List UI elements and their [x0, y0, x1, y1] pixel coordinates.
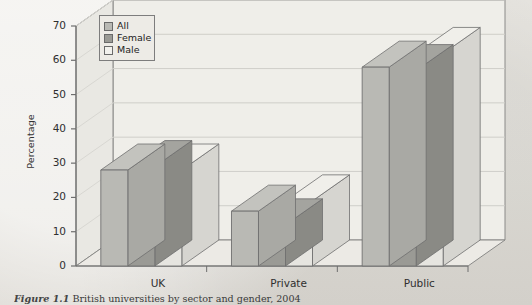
x-tick-label-private: Private	[244, 277, 334, 289]
bar-private-all-front	[231, 211, 258, 266]
figure-caption: Figure 1.1 British universities by secto…	[14, 293, 524, 305]
chart-plot-area	[0, 0, 532, 305]
legend-swatch-male	[104, 46, 113, 55]
y-tick-label-20: 20	[40, 190, 66, 202]
legend-label-female: Female	[117, 32, 151, 44]
bar-public-all-front	[362, 67, 389, 266]
legend-item-all: All	[104, 20, 149, 32]
chart-legend: All Female Male	[99, 15, 155, 61]
y-tick-label-10: 10	[40, 225, 66, 237]
figure-caption-text: British universities by sector and gende…	[72, 293, 300, 304]
legend-label-all: All	[117, 20, 129, 32]
y-tick-label-50: 50	[40, 88, 66, 100]
y-tick-label-70: 70	[40, 19, 66, 31]
figure-bar-chart: Percentage 010203040506070 UKPrivatePubl…	[0, 0, 532, 305]
y-tick-label-60: 60	[40, 53, 66, 65]
legend-swatch-female	[104, 34, 113, 43]
x-tick-label-public: Public	[374, 277, 464, 289]
bar-public-all-side	[389, 41, 426, 266]
legend-swatch-all	[104, 22, 113, 31]
legend-item-female: Female	[104, 32, 149, 44]
y-tick-label-30: 30	[40, 156, 66, 168]
y-tick-label-40: 40	[40, 122, 66, 134]
y-axis-label: Percentage	[25, 99, 36, 185]
bar-uk-all-front	[101, 170, 128, 266]
legend-label-male: Male	[117, 44, 140, 56]
x-tick-label-uk: UK	[113, 277, 203, 289]
y-tick-label-0: 0	[40, 259, 66, 271]
legend-item-male: Male	[104, 44, 149, 56]
figure-number: Figure 1.1	[14, 293, 69, 304]
